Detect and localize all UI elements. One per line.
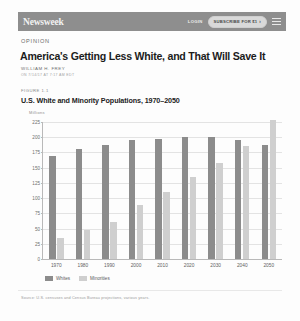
- hamburger-bar: [272, 21, 281, 22]
- legend-item-whites: Whites: [45, 276, 70, 281]
- site-navbar: Newsweek LOGIN SUBSCRIBE FOR $1 ›: [18, 12, 286, 31]
- x-axis-tick: 2020: [184, 263, 195, 268]
- section-kicker[interactable]: OPINION: [21, 38, 50, 44]
- bar-group: 1990: [96, 122, 123, 259]
- bar-group: 2010: [149, 122, 176, 259]
- author-byline[interactable]: WILLIAM H. FREY: [21, 66, 65, 71]
- x-axis-tick: 2010: [157, 263, 168, 268]
- bar-minorities-1980: [84, 230, 91, 259]
- subscribe-button[interactable]: SUBSCRIBE FOR $1 ›: [208, 16, 267, 28]
- y-axis-tick: 150: [32, 165, 40, 170]
- legend-swatch: [79, 276, 87, 281]
- bar-whites-2010: [155, 139, 162, 259]
- chart-legend: WhitesMinorities: [45, 276, 110, 281]
- gridline: [43, 259, 282, 260]
- page-title: America's Getting Less White, and That W…: [20, 50, 288, 62]
- publish-timestamp: ON 7/14/17 AT 7:17 AM EDT: [21, 73, 74, 77]
- bar-whites-1990: [102, 145, 109, 259]
- y-axis-tick: 225: [32, 120, 40, 125]
- y-axis-tick: 100: [32, 196, 40, 201]
- bar-minorities-2040: [243, 146, 250, 259]
- figure-number: FIGURE 1.1: [21, 88, 49, 93]
- bar-group: 2020: [176, 122, 203, 259]
- source-note: Source: U.S. censuses and Census Bureau …: [21, 296, 281, 300]
- x-axis-tick: 2000: [131, 263, 142, 268]
- newsweek-logo[interactable]: Newsweek: [23, 17, 64, 27]
- bar-minorities-2050: [270, 120, 277, 259]
- y-axis-tick: 200: [32, 135, 40, 140]
- bar-group: 2050: [256, 122, 283, 259]
- legend-label: Whites: [56, 276, 70, 281]
- divider: [18, 290, 282, 291]
- chevron-right-icon: ›: [259, 19, 261, 24]
- bar-whites-2020: [182, 137, 189, 259]
- hamburger-bar: [272, 24, 281, 25]
- bar-minorities-2010: [163, 192, 170, 259]
- bar-whites-1980: [76, 149, 83, 259]
- chart-title: U.S. White and Minority Populations, 197…: [21, 96, 281, 105]
- x-axis-tick: 1980: [78, 263, 89, 268]
- bar-group: 2030: [202, 122, 229, 259]
- x-axis-tick: 1990: [104, 263, 115, 268]
- bar-whites-2000: [129, 140, 136, 259]
- y-axis-tick: 25: [35, 241, 40, 246]
- bar-groups: 197019801990200020102020203020402050: [43, 122, 282, 259]
- y-axis-tick: 50: [35, 226, 40, 231]
- bar-minorities-1990: [110, 222, 117, 259]
- bar-group: 2040: [229, 122, 256, 259]
- x-axis-tick: 2050: [263, 263, 274, 268]
- bar-whites-2040: [235, 140, 242, 259]
- bar-minorities-2000: [137, 205, 144, 259]
- article-page: Newsweek LOGIN SUBSCRIBE FOR $1 › OPINIO…: [0, 0, 300, 321]
- bar-minorities-1970: [57, 238, 64, 259]
- y-axis-tick: 75: [35, 211, 40, 216]
- bar-chart: 0255075100125150175200225 19701980199020…: [42, 122, 282, 260]
- y-axis-tick: 0: [37, 257, 40, 262]
- bar-group: 1970: [43, 122, 70, 259]
- bar-whites-2030: [208, 137, 215, 259]
- x-axis-tick: 2040: [237, 263, 248, 268]
- bar-whites-1970: [49, 156, 56, 260]
- hamburger-bar: [272, 18, 281, 19]
- login-link[interactable]: LOGIN: [188, 19, 203, 24]
- y-axis-label: Millions: [29, 110, 45, 115]
- x-axis-tick: 1970: [51, 263, 62, 268]
- bar-minorities-2020: [190, 177, 197, 259]
- legend-swatch: [45, 276, 53, 281]
- legend-item-minorities: Minorities: [79, 276, 110, 281]
- legend-label: Minorities: [90, 276, 110, 281]
- bar-group: 1980: [70, 122, 97, 259]
- x-axis-tick: 2030: [210, 263, 221, 268]
- y-axis-tick-mark: [41, 259, 43, 260]
- bar-whites-2050: [262, 145, 269, 259]
- hamburger-menu-icon[interactable]: [272, 18, 281, 25]
- bar-minorities-2030: [216, 163, 223, 259]
- subscribe-label: SUBSCRIBE FOR $1: [214, 19, 258, 24]
- y-axis-tick: 125: [32, 180, 40, 185]
- y-axis-tick: 175: [32, 150, 40, 155]
- bar-group: 2000: [123, 122, 150, 259]
- plot-area: 0255075100125150175200225 19701980199020…: [42, 122, 282, 260]
